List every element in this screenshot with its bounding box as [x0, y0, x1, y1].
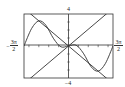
- y-max-label: 4: [64, 6, 73, 12]
- y-min-label: −4: [62, 80, 74, 86]
- x-max-numerator: 3π: [114, 39, 122, 46]
- x-min-numerator: 3π: [10, 39, 18, 46]
- x-min-denominator: 2: [12, 46, 15, 52]
- x-max-denominator: 2: [117, 46, 120, 52]
- x-max-label: 3π 2: [112, 39, 125, 52]
- x-min-label: − 3π 2: [2, 39, 22, 52]
